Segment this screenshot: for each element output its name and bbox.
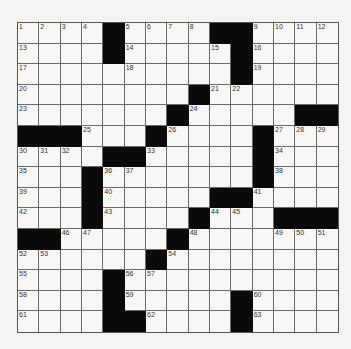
grid-cell[interactable]	[274, 188, 295, 209]
grid-cell[interactable]: 1	[18, 23, 39, 44]
grid-cell[interactable]	[274, 44, 295, 65]
grid-cell[interactable]	[295, 250, 316, 271]
grid-cell[interactable]	[146, 105, 167, 126]
grid-cell[interactable]	[167, 85, 188, 106]
grid-cell[interactable]	[82, 291, 103, 312]
grid-cell[interactable]	[253, 105, 274, 126]
grid-cell[interactable]	[146, 208, 167, 229]
grid-cell[interactable]: 48	[189, 229, 210, 250]
grid-cell[interactable]	[317, 85, 338, 106]
grid-cell[interactable]	[189, 291, 210, 312]
grid-cell[interactable]: 8	[189, 23, 210, 44]
grid-cell[interactable]	[210, 105, 231, 126]
grid-cell[interactable]: 35	[18, 167, 39, 188]
grid-cell[interactable]	[231, 250, 252, 271]
grid-cell[interactable]	[39, 311, 60, 332]
grid-cell[interactable]	[210, 147, 231, 168]
grid-cell[interactable]	[274, 250, 295, 271]
grid-cell[interactable]: 40	[103, 188, 124, 209]
grid-cell[interactable]: 47	[82, 229, 103, 250]
grid-cell[interactable]	[146, 188, 167, 209]
grid-cell[interactable]	[61, 291, 82, 312]
grid-cell[interactable]	[82, 44, 103, 65]
grid-cell[interactable]	[189, 250, 210, 271]
grid-cell[interactable]	[189, 126, 210, 147]
grid-cell[interactable]	[39, 208, 60, 229]
grid-cell[interactable]: 6	[146, 23, 167, 44]
grid-cell[interactable]: 11	[295, 23, 316, 44]
grid-cell[interactable]: 21	[210, 85, 231, 106]
grid-cell[interactable]	[210, 167, 231, 188]
grid-cell[interactable]	[146, 167, 167, 188]
grid-cell[interactable]	[231, 229, 252, 250]
grid-cell[interactable]	[253, 208, 274, 229]
grid-cell[interactable]: 31	[39, 147, 60, 168]
grid-cell[interactable]	[125, 105, 146, 126]
grid-cell[interactable]	[103, 105, 124, 126]
grid-cell[interactable]: 2	[39, 23, 60, 44]
grid-cell[interactable]	[167, 208, 188, 229]
grid-cell[interactable]: 56	[125, 270, 146, 291]
grid-cell[interactable]	[231, 126, 252, 147]
grid-cell[interactable]	[189, 311, 210, 332]
grid-cell[interactable]	[167, 270, 188, 291]
grid-cell[interactable]: 14	[125, 44, 146, 65]
grid-cell[interactable]	[274, 105, 295, 126]
grid-cell[interactable]	[103, 64, 124, 85]
grid-cell[interactable]	[125, 250, 146, 271]
grid-cell[interactable]: 36	[103, 167, 124, 188]
grid-cell[interactable]	[61, 44, 82, 65]
grid-cell[interactable]	[210, 250, 231, 271]
grid-cell[interactable]	[317, 291, 338, 312]
grid-cell[interactable]: 34	[274, 147, 295, 168]
grid-cell[interactable]	[82, 147, 103, 168]
grid-cell[interactable]	[167, 147, 188, 168]
grid-cell[interactable]	[39, 270, 60, 291]
grid-cell[interactable]	[39, 188, 60, 209]
grid-cell[interactable]	[82, 64, 103, 85]
grid-cell[interactable]	[295, 291, 316, 312]
grid-cell[interactable]	[295, 188, 316, 209]
grid-cell[interactable]	[82, 311, 103, 332]
grid-cell[interactable]: 18	[125, 64, 146, 85]
grid-cell[interactable]	[61, 167, 82, 188]
grid-cell[interactable]: 61	[18, 311, 39, 332]
grid-cell[interactable]	[317, 64, 338, 85]
grid-cell[interactable]	[210, 229, 231, 250]
grid-cell[interactable]	[61, 64, 82, 85]
grid-cell[interactable]	[189, 188, 210, 209]
grid-cell[interactable]	[317, 188, 338, 209]
grid-cell[interactable]	[317, 250, 338, 271]
grid-cell[interactable]: 17	[18, 64, 39, 85]
grid-cell[interactable]	[231, 105, 252, 126]
grid-cell[interactable]: 60	[253, 291, 274, 312]
grid-cell[interactable]	[167, 311, 188, 332]
grid-cell[interactable]: 12	[317, 23, 338, 44]
grid-cell[interactable]: 23	[18, 105, 39, 126]
grid-cell[interactable]	[61, 85, 82, 106]
grid-cell[interactable]	[167, 291, 188, 312]
grid-cell[interactable]: 58	[18, 291, 39, 312]
grid-cell[interactable]	[253, 229, 274, 250]
grid-cell[interactable]: 46	[61, 229, 82, 250]
grid-cell[interactable]	[82, 270, 103, 291]
grid-cell[interactable]: 41	[253, 188, 274, 209]
grid-cell[interactable]	[39, 64, 60, 85]
grid-cell[interactable]	[295, 44, 316, 65]
grid-cell[interactable]: 3	[61, 23, 82, 44]
grid-cell[interactable]	[274, 64, 295, 85]
grid-cell[interactable]	[317, 167, 338, 188]
grid-cell[interactable]	[295, 85, 316, 106]
grid-cell[interactable]: 39	[18, 188, 39, 209]
grid-cell[interactable]	[167, 167, 188, 188]
grid-cell[interactable]	[295, 167, 316, 188]
grid-cell[interactable]	[189, 64, 210, 85]
grid-cell[interactable]: 53	[39, 250, 60, 271]
grid-cell[interactable]	[61, 311, 82, 332]
grid-cell[interactable]: 43	[103, 208, 124, 229]
grid-cell[interactable]	[125, 208, 146, 229]
grid-cell[interactable]	[295, 64, 316, 85]
grid-cell[interactable]	[82, 105, 103, 126]
grid-cell[interactable]	[231, 147, 252, 168]
grid-cell[interactable]: 57	[146, 270, 167, 291]
